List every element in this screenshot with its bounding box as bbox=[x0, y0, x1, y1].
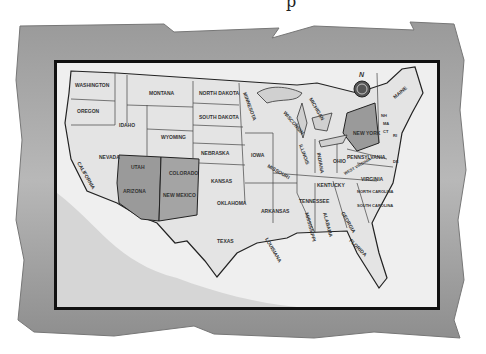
label-virginia: VIRGINIA bbox=[361, 176, 384, 182]
label-kansas: KANSAS bbox=[211, 178, 233, 184]
label-delaware: DE bbox=[393, 159, 399, 164]
label-montana: MONTANA bbox=[149, 90, 175, 96]
label-new-hampshire: NH bbox=[381, 113, 387, 118]
label-iowa: IOWA bbox=[251, 152, 265, 158]
us-map: N WASHINGTON OREGON CALIFORNIA IDAHO NEV… bbox=[54, 60, 440, 310]
label-ohio: OHIO bbox=[333, 158, 346, 164]
label-new-mexico: NEW MEXICO bbox=[163, 192, 196, 198]
label-idaho: IDAHO bbox=[119, 122, 135, 128]
label-nebraska: NEBRASKA bbox=[201, 150, 230, 156]
page-title-fragment: p bbox=[286, 0, 296, 11]
label-texas: TEXAS bbox=[217, 238, 234, 244]
label-kentucky: KENTUCKY bbox=[317, 182, 345, 188]
label-arizona: ARIZONA bbox=[123, 188, 146, 194]
label-massachusetts: MA bbox=[383, 121, 389, 126]
label-tennessee: TENNESSEE bbox=[299, 198, 330, 204]
label-oklahoma: OKLAHOMA bbox=[217, 200, 247, 206]
label-arkansas: ARKANSAS bbox=[261, 208, 290, 214]
label-oregon: OREGON bbox=[77, 108, 100, 114]
label-utah: UTAH bbox=[131, 164, 145, 170]
label-nevada: NEVADA bbox=[99, 154, 120, 160]
label-wyoming: WYOMING bbox=[161, 134, 186, 140]
us-map-svg: N WASHINGTON OREGON CALIFORNIA IDAHO NEV… bbox=[57, 63, 437, 307]
label-colorado: COLORADO bbox=[169, 170, 198, 176]
label-washington: WASHINGTON bbox=[75, 82, 110, 88]
label-north-dakota: NORTH DAKOTA bbox=[199, 90, 240, 96]
label-north-carolina: NORTH CAROLINA bbox=[357, 189, 394, 194]
label-rhode-island: RI bbox=[393, 133, 397, 138]
label-new-york: NEW YORK bbox=[353, 130, 381, 136]
label-south-dakota: SOUTH DAKOTA bbox=[199, 114, 239, 120]
label-connecticut: CT bbox=[383, 129, 389, 134]
label-south-carolina: SOUTH CAROLINA bbox=[357, 203, 393, 208]
label-pennsylvania: PENNSYLVANIA bbox=[347, 154, 386, 160]
